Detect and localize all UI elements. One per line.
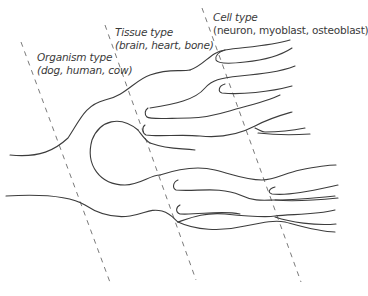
organism-examples: (dog, human, cow) bbox=[37, 64, 132, 77]
cell-title: Cell type bbox=[213, 11, 368, 24]
level-label-tissue: Tissue type (brain, heart, bone) bbox=[115, 26, 214, 52]
boundary-organism bbox=[21, 42, 111, 285]
boundary-cell bbox=[202, 8, 301, 282]
organism-title: Organism type bbox=[37, 51, 132, 64]
level-label-cell: Cell type (neuron, myoblast, osteoblast) bbox=[213, 11, 368, 37]
cell-examples: (neuron, myoblast, osteoblast) bbox=[213, 24, 368, 37]
level-label-organism: Organism type (dog, human, cow) bbox=[37, 51, 132, 77]
tissue-examples: (brain, heart, bone) bbox=[115, 39, 214, 52]
tissue-title: Tissue type bbox=[115, 26, 214, 39]
